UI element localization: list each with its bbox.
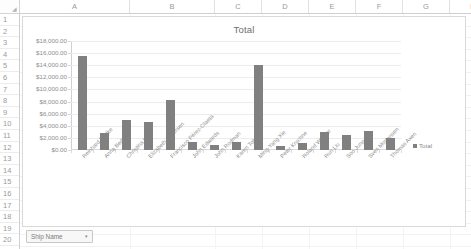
row-header-15[interactable]: 15 [0,176,19,188]
x-axis-tick-mark [291,150,292,153]
column-header-h[interactable]: H [450,0,471,13]
x-axis-tick-mark [137,150,138,153]
x-axis-tick-mark [269,150,270,153]
row-header-20[interactable]: 20 [0,234,19,246]
y-axis-tick-mark [68,126,71,127]
column-header-row: ABCDEFGHIJ [20,0,471,14]
y-axis-tick-label: $16,000.00 [36,50,67,56]
y-axis-tick-mark [68,53,71,54]
plot-area: $18,000.00$16,000.00$14,000.00$12,000.00… [71,41,401,150]
chart-bar[interactable] [144,122,153,150]
row-header-1[interactable]: 1 [0,14,19,26]
y-axis-tick-label: $4,000.00 [39,123,67,129]
y-axis-tick-label: $14,000.00 [36,62,67,68]
y-axis-tick-label: $18,000.00 [36,38,67,44]
x-axis-tick-mark [247,150,248,153]
column-header-a[interactable]: A [20,0,130,13]
column-header-c[interactable]: C [215,0,262,13]
column-header-d[interactable]: D [262,0,309,13]
x-axis-tick-mark [93,150,94,153]
x-axis-tick-mark [357,150,358,153]
row-header-3[interactable]: 3 [0,37,19,49]
row-header-18[interactable]: 18 [0,211,19,223]
chevron-down-icon: ▾ [85,233,92,240]
row-header-5[interactable]: 5 [0,60,19,72]
row-header-13[interactable]: 13 [0,153,19,165]
x-axis-tick-mark [401,150,402,153]
row-header-9[interactable]: 9 [0,107,19,119]
row-header-8[interactable]: 8 [0,95,19,107]
chart-object[interactable]: Total $18,000.00$16,000.00$14,000.00$12,… [22,16,466,227]
y-axis-tick-label: $10,000.00 [36,86,67,92]
y-axis-tick-label: $6,000.00 [39,111,67,117]
legend-swatch-total [413,144,417,148]
y-axis-tick-mark [68,102,71,103]
column-header-e[interactable]: E [309,0,356,13]
row-header-column: 1234567891011121314151617181920 [0,14,20,249]
chart-bar[interactable] [122,120,131,150]
x-axis-tick-mark [181,150,182,153]
legend-label-total: Total [419,143,432,149]
chart-gridline [71,77,401,78]
x-axis-tick-mark [335,150,336,153]
chart-bar[interactable] [254,65,263,150]
select-all-icon: ◢ [12,6,17,12]
column-header-g[interactable]: G [403,0,450,13]
chart-bar[interactable] [78,56,87,150]
y-axis-tick-mark [68,77,71,78]
row-header-2[interactable]: 2 [0,26,19,38]
chart-gridline [71,65,401,66]
row-header-7[interactable]: 7 [0,84,19,96]
chart-legend[interactable]: Total [413,143,432,149]
chart-bar[interactable] [342,135,351,150]
row-header-11[interactable]: 11 [0,130,19,142]
y-axis-line [71,41,72,150]
y-axis-tick-mark [68,65,71,66]
y-axis-tick-label: $12,000.00 [36,74,67,80]
row-header-10[interactable]: 10 [0,118,19,130]
chart-gridline [71,53,401,54]
y-axis-tick-mark [68,138,71,139]
chart-gridline [71,114,401,115]
ship-name-filter-button[interactable]: Ship Name ▾ [26,230,93,243]
row-header-17[interactable]: 17 [0,200,19,212]
column-header-f[interactable]: F [356,0,403,13]
chart-gridline [71,41,401,42]
x-axis-tick-mark [159,150,160,153]
ship-name-filter-label: Ship Name [27,233,85,240]
select-all-corner[interactable]: ◢ [0,0,20,14]
y-axis-tick-mark [68,41,71,42]
x-axis-tick-mark [115,150,116,153]
y-axis-tick-label: $0.00 [52,147,67,153]
row-header-12[interactable]: 12 [0,142,19,154]
column-header-b[interactable]: B [130,0,215,13]
row-header-4[interactable]: 4 [0,49,19,61]
chart-bar[interactable] [320,132,329,150]
y-axis-tick-label: $8,000.00 [39,99,67,105]
row-header-6[interactable]: 6 [0,72,19,84]
y-axis-tick-mark [68,114,71,115]
chart-bar[interactable] [386,138,395,150]
row-header-19[interactable]: 19 [0,223,19,235]
spreadsheet-grid[interactable]: ◢ ABCDEFGHIJ 123456789101112131415161718… [0,0,471,249]
chart-bar[interactable] [100,133,109,150]
row-header-16[interactable]: 16 [0,188,19,200]
x-axis-tick-mark [379,150,380,153]
chart-gridline [71,102,401,103]
chart-title: Total [23,24,465,35]
x-axis-tick-mark [313,150,314,153]
chart-gridline [71,126,401,127]
chart-gridline [71,89,401,90]
x-axis-tick-mark [225,150,226,153]
x-axis-tick-mark [71,150,72,153]
chart-bar[interactable] [364,131,373,150]
x-axis-tick-mark [203,150,204,153]
chart-bar[interactable] [166,100,175,150]
row-header-14[interactable]: 14 [0,165,19,177]
y-axis-tick-mark [68,89,71,90]
y-axis-tick-label: $2,000.00 [39,135,67,141]
